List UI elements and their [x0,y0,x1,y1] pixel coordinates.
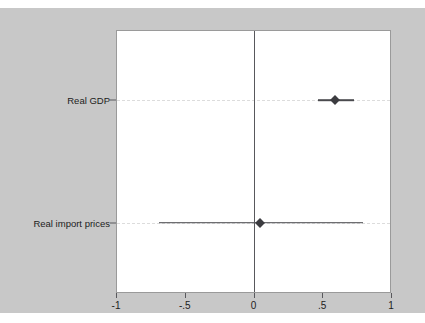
x-axis-tick [116,293,117,298]
x-axis-tick [254,293,255,298]
estimate-marker [330,95,340,105]
estimate-marker [255,218,265,228]
x-axis-label-2: -.5 [179,300,191,311]
plot-inner [117,31,390,292]
x-axis-tick [322,293,323,298]
y-axis-label-2: Real import prices [33,218,110,229]
coefficient-plot-figure: Real GDPReal import prices -1-.50.51 [0,0,425,323]
y-axis: Real GDPReal import prices [0,30,110,293]
graph-region: Real GDPReal import prices -1-.50.51 [0,8,425,313]
x-axis: -1-.50.51 [116,293,391,321]
y-axis-label-1: Real GDP [67,94,110,105]
x-axis-label-4: .5 [318,300,326,311]
x-axis-label-1: -1 [112,300,121,311]
zero-reference-line [254,31,255,292]
x-axis-tick [391,293,392,298]
x-axis-label-5: 1 [388,300,394,311]
x-axis-label-3: 0 [251,300,257,311]
x-axis-tick [185,293,186,298]
plot-area [116,30,391,293]
